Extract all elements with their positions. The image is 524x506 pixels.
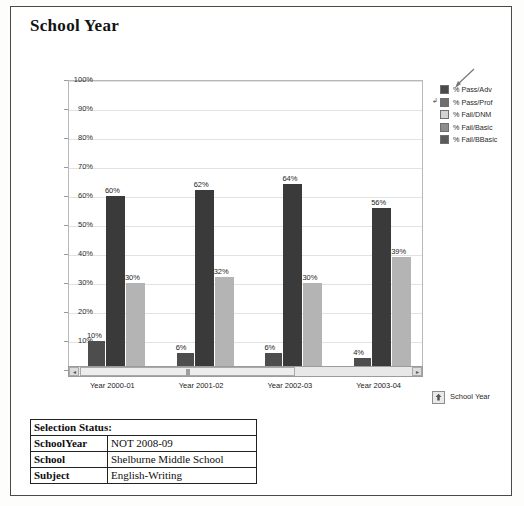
school-year-button-label: School Year [450,392,490,401]
y-axis-tick-label: 20% [43,307,93,316]
x-axis: Year 2000-01Year 2001-02Year 2002-03Year… [68,370,423,400]
y-axis-tick-mark [64,109,68,110]
legend-item-label: % Pass/Prof [453,97,493,108]
status-value: NOT 2008-09 [108,436,257,452]
legend-item-label: % Fail/BBasic [453,134,497,145]
bar-value-label: 30% [125,273,140,282]
legend-swatch [440,135,449,144]
y-axis-tick-mark [64,138,68,139]
y-axis-tick-mark [64,254,68,255]
legend-swatch [440,98,449,107]
legend-item[interactable]: % Fail/Basic [440,122,520,135]
bar-group: 6%64%30% [265,80,322,370]
bar[interactable] [303,283,322,370]
up-arrow-icon[interactable] [432,391,445,404]
bar-group: 4%56%39% [354,80,411,370]
y-axis-tick-label: 70% [43,162,93,171]
status-key: SchoolYear [31,436,108,452]
selection-status-header: Selection Status: [31,420,257,436]
table-row: SchoolYearNOT 2008-09 [31,436,257,452]
y-axis-tick-label: 90% [43,104,93,113]
bar[interactable] [372,208,391,370]
bar[interactable] [283,184,302,370]
bar-chart: 100%90%80%70%60%50%40%30%20%10%0% 10%60%… [10,60,510,405]
legend-swatch [440,110,449,119]
selection-status-table: Selection Status:SchoolYearNOT 2008-09Sc… [30,419,257,484]
x-axis-category-label: Year 2002-03 [246,381,335,390]
status-key: School [31,452,108,468]
status-key: Subject [31,468,108,484]
table-row: SchoolShelburne Middle School [31,452,257,468]
y-axis-tick-label: 30% [43,278,93,287]
legend-item[interactable]: % Fail/BBasic [440,134,520,147]
bar-value-label: 39% [391,247,406,256]
chart-legend: % Pass/Adv% Pass/Prof% Fail/DNM% Fail/Ba… [440,84,520,147]
bar-value-label: 10% [87,331,102,340]
page-title: School Year [30,16,119,36]
bar[interactable] [195,190,214,370]
bar-value-label: 56% [371,198,386,207]
legend-item-label: % Fail/Basic [453,122,493,133]
legend-item[interactable]: % Fail/DNM [440,109,520,122]
legend-item-label: % Fail/DNM [453,109,491,120]
legend-swatch [440,123,449,132]
bar-value-label: 6% [176,343,187,352]
table-row: Selection Status: [31,420,257,436]
bar-group: 10%60%30% [88,80,145,370]
x-axis-category-label: Year 2000-01 [68,381,157,390]
y-axis-tick-mark [64,283,68,284]
x-axis-category-label: Year 2003-04 [334,381,423,390]
y-axis-tick-label: 60% [43,191,93,200]
x-axis-category-label: Year 2001-02 [157,381,246,390]
bar-value-label: 60% [105,186,120,195]
y-axis-tick-label: 80% [43,133,93,142]
y-axis-tick-label: 100% [43,75,93,84]
bar-value-label: 62% [194,180,209,189]
report-page: School Year 100%90%80%70%60%50%40%30%20%… [0,0,524,506]
y-axis-tick-mark [64,167,68,168]
bar[interactable] [215,277,234,370]
y-axis-tick-mark [64,80,68,81]
school-year-button[interactable]: School Year [432,391,522,407]
bar-group: 6%62%32% [177,80,234,370]
bar[interactable] [392,257,411,370]
y-axis-tick-mark [64,225,68,226]
bar[interactable] [106,196,125,370]
bar-value-label: 6% [264,343,275,352]
bar-value-label: 64% [282,174,297,183]
status-value: Shelburne Middle School [108,452,257,468]
y-axis-tick-mark [64,341,68,342]
y-axis-tick-mark [64,196,68,197]
bar-value-label: 30% [302,273,317,282]
table-row: SubjectEnglish-Writing [31,468,257,484]
y-axis-tick-mark [64,312,68,313]
legend-left-marker: ↲ [432,97,438,105]
legend-item[interactable]: % Pass/Adv [440,84,520,97]
y-axis-tick-label: 40% [43,249,93,258]
y-axis-tick-label: 50% [43,220,93,229]
legend-item[interactable]: % Pass/Prof [440,97,520,110]
legend-swatch [440,85,449,94]
status-value: English-Writing [108,468,257,484]
bar-value-label: 4% [353,348,364,357]
bar-value-label: 32% [214,267,229,276]
y-axis-tick-label: 10% [43,336,93,345]
legend-item-label: % Pass/Adv [453,84,492,95]
bar[interactable] [126,283,145,370]
